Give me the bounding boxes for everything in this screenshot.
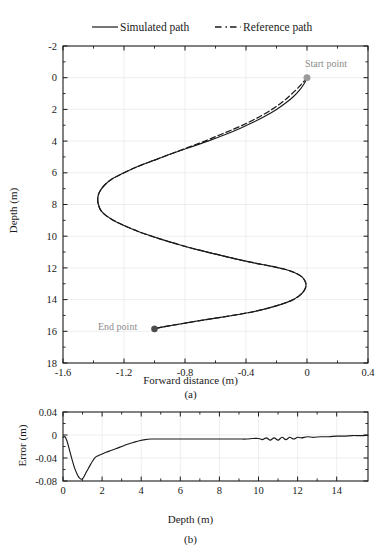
panel-a-path-tracking-ytick-label: 14 (47, 294, 58, 305)
panel-a-path-tracking-ytick-label: 18 (47, 358, 58, 369)
panel-a-path-tracking-ytick-label: -2 (48, 41, 57, 52)
panel-b-tracking-error-ytick-label: -0.04 (35, 453, 58, 464)
panel-b-yaxis-title: Error (m) (17, 416, 28, 476)
panel-a-path-tracking-ytick-label: 12 (47, 263, 58, 274)
end-point-annotation: End point (98, 322, 137, 332)
panel-b-tracking-error-ytick-label: 0.04 (39, 407, 58, 418)
panel-a-xaxis-title: Forward distance (m) (0, 375, 381, 386)
panel-b-tracking-error-xtick-label: 0 (60, 485, 65, 496)
panel-a-label: (a) (0, 389, 381, 400)
panel-b-tracking-error-xtick-label: 6 (178, 485, 183, 496)
legend-label-reference-path: Reference path (243, 22, 312, 34)
panel-a-path-tracking-ytick-label: 16 (47, 326, 58, 337)
panel-a-path-tracking-ytick-label: 6 (52, 167, 57, 178)
panel-b-xaxis-title: Depth (m) (0, 514, 381, 525)
panel-a-path-tracking-ytick-label: 4 (52, 136, 58, 147)
panel-a-path-tracking-ytick-label: 8 (52, 199, 57, 210)
panel-b-tracking-error-xtick-label: 2 (99, 485, 104, 496)
panel-b-tracking-error-xtick-label: 14 (331, 485, 342, 496)
panel-a-path-tracking-series-solid (98, 78, 307, 329)
legend-label-simulated-path: Simulated path (120, 22, 189, 34)
panel-b-tracking-error-xtick-label: 10 (253, 485, 264, 496)
panel-b-tracking-error-xtick-label: 4 (139, 485, 145, 496)
panel-a-path-tracking-series-dashed (98, 78, 307, 329)
start-point-annotation: Start point (305, 59, 347, 69)
panel-b-tracking-error-xtick-label: 12 (292, 485, 303, 496)
end-point-marker (151, 326, 157, 332)
panel-b-tracking-error-series-solid (63, 435, 368, 479)
panel-a-path-tracking-ytick-label: 2 (52, 104, 57, 115)
figure-canvas: -1.6-1.2-0.8-0.400.4-2024681012141618024… (0, 0, 381, 558)
panel-b-tracking-error-axes-frame (63, 412, 368, 481)
panel-b-tracking-error-ytick-label: -0.08 (35, 476, 57, 487)
panel-a-path-tracking-ytick-label: 10 (47, 231, 58, 242)
panel-a-yaxis-title: Depth (m) (8, 176, 19, 246)
panel-b-tracking-error-ytick-label: 0 (52, 430, 57, 441)
start-point-marker (304, 74, 311, 81)
panel-b-tracking-error-xtick-label: 8 (217, 485, 222, 496)
panel-a-path-tracking-ytick-label: 0 (52, 72, 57, 83)
panel-b-label: (b) (0, 534, 381, 545)
figure-container: -1.6-1.2-0.8-0.400.4-2024681012141618024… (0, 0, 381, 558)
